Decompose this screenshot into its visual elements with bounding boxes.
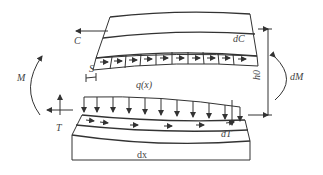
label-distributed-load: q(x): [136, 80, 152, 90]
label-moment-increment: dM: [290, 72, 303, 82]
upper-shear-layer: [93, 52, 258, 70]
label-tension-increment: dT: [221, 129, 232, 139]
beam-element-diagram: [0, 0, 323, 175]
label-shear-slip: S: [89, 64, 94, 74]
label-compression-increment: dC: [233, 34, 245, 44]
label-moment: M: [17, 73, 25, 83]
label-compression-force: C: [74, 36, 81, 46]
label-lever-arm: h0: [252, 70, 262, 80]
label-tension-force: T: [56, 123, 62, 133]
label-element-length: dx: [137, 150, 147, 160]
